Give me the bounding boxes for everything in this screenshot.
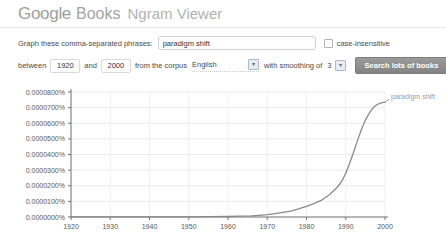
y-tick-label: 0.0000200% [26,182,65,189]
case-insensitive-checkbox[interactable] [324,39,333,48]
header-divider [0,27,446,28]
x-tick-label: 1980 [299,223,315,230]
and-label: and [84,61,97,70]
ngram-chart: 0.0000000%0.0000100%0.0000200%0.0000300%… [0,82,446,244]
smoothing-label: with smoothing of [264,61,322,70]
app-title: Ngram Viewer [128,5,223,22]
x-tick-label: 1950 [181,223,197,230]
google-logo: Google [18,4,71,24]
x-tick-label: 1970 [259,223,275,230]
chart-area: 0.0000000%0.0000100%0.0000200%0.0000300%… [0,82,446,244]
header: Google Books Ngram Viewer [18,4,222,26]
x-tick-label: 1940 [142,223,158,230]
series-label-connector [385,99,389,102]
x-tick-label: 2000 [377,223,393,230]
y-tick-label: 0.0000800% [26,89,65,96]
series-label: paradigm shift [391,93,435,101]
phrases-input[interactable] [158,36,316,50]
y-tick-label: 0.0000400% [26,151,65,158]
search-button[interactable]: Search lots of books [355,57,446,74]
end-year-input[interactable] [101,59,131,73]
start-year-input[interactable] [50,59,80,73]
corpus-select[interactable]: English ▾ [192,59,259,72]
smoothing-dropdown-icon[interactable]: ▾ [335,60,346,71]
corpus-selected-value: English [192,60,244,69]
books-brand-text: Books [76,5,120,23]
corpus-dropdown-icon[interactable]: ▾ [248,59,259,70]
case-insensitive-label: case-insensitive [337,39,390,48]
between-label: between [18,61,46,70]
x-tick-label: 1960 [220,223,236,230]
options-row: between and from the corpus English ▾ wi… [18,57,446,74]
smoothing-selected-value: 3 [327,61,331,70]
x-tick-label: 1930 [102,223,118,230]
y-tick-label: 0.0000500% [26,135,65,142]
y-tick-label: 0.0000700% [26,104,65,111]
phrases-row: Graph these comma-separated phrases: cas… [18,36,390,50]
y-tick-label: 0.0000000% [26,214,65,221]
y-tick-label: 0.0000600% [26,120,65,127]
y-tick-label: 0.0000300% [26,167,65,174]
x-tick-label: 1990 [338,223,354,230]
corpus-label: from the corpus [135,61,187,70]
y-tick-label: 0.0000100% [26,198,65,205]
phrases-label: Graph these comma-separated phrases: [18,39,153,48]
x-tick-label: 1920 [63,223,79,230]
